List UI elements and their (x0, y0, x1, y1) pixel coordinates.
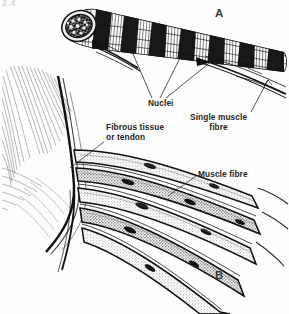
panel-letter-a: A (215, 7, 224, 20)
label-nuclei: Nuclei (148, 99, 174, 108)
fibrous-tissue-fan (2, 66, 76, 268)
label-muscle-fibre: Muscle fibre (198, 170, 248, 179)
label-single-muscle-fibre: Single muscle fibre (190, 113, 247, 133)
single-muscle-fibre-leader-line (251, 80, 272, 112)
panel-letter-b: B (215, 269, 224, 282)
corner-page-mark: 2.4 (2, 0, 16, 8)
panel-b-group (2, 66, 288, 314)
label-single-muscle-fibre-line2: fibre (190, 123, 247, 133)
label-fibrous-tissue-or-tendon: Fibrous tissue or tendon (106, 123, 164, 143)
panel-a-group (63, 8, 287, 76)
figure-canvas: 2.4 A B Nuclei Single muscle fibre Fibro… (0, 0, 289, 314)
tendon-tail (58, 186, 74, 272)
label-fibrous-tissue-line2: or tendon (106, 133, 164, 143)
muscle-fibre-edge-slivers (256, 188, 288, 266)
muscle-fibre-illustration (0, 0, 289, 314)
